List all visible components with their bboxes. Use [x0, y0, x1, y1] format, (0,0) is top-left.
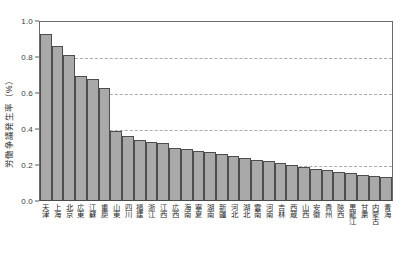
x-axis-label: 山東 — [110, 203, 122, 217]
x-axis-label-text: 内蒙古 — [372, 203, 379, 224]
bar — [169, 148, 181, 200]
bar — [193, 151, 205, 201]
x-axis-label: 寧夏 — [192, 203, 204, 217]
y-tick-label: 0.4 — [21, 125, 33, 134]
x-axis-label: 山西 — [299, 203, 311, 217]
x-axis-label-text: 江蘇 — [88, 203, 95, 217]
x-axis-label-text: 黒龍江 — [348, 203, 355, 224]
x-axis-label: 陝西 — [334, 203, 346, 217]
bar — [99, 88, 111, 200]
bar — [228, 156, 240, 200]
y-axis-title: 労働争議発生率（%） — [2, 32, 16, 212]
x-axis-label-text: 貴州 — [324, 203, 331, 217]
x-axis-label: 甘粛 — [358, 203, 370, 217]
x-axis-label: 貴州 — [322, 203, 334, 217]
x-axis-label-text: 北京 — [65, 203, 72, 217]
x-axis-label: 四川 — [122, 203, 134, 217]
x-axis-label-text: 青海 — [383, 203, 390, 217]
x-axis-label: 福建 — [133, 203, 145, 217]
bar — [286, 165, 298, 200]
x-axis-label: 北京 — [63, 203, 75, 217]
x-axis-label-text: 四川 — [124, 203, 131, 217]
x-axis-label: 黒龍江 — [346, 203, 358, 224]
x-axis-label-text: 天津 — [41, 203, 48, 217]
x-axis-label: 天津 — [39, 203, 51, 217]
x-axis-label: 海南 — [181, 203, 193, 217]
bar — [357, 175, 369, 200]
bar — [40, 34, 52, 200]
x-axis-label: 江西 — [157, 203, 169, 217]
x-axis-label-text: 甘粛 — [360, 203, 367, 217]
bar — [157, 143, 169, 200]
bar — [298, 167, 310, 200]
y-tick-label: 0.6 — [21, 89, 33, 98]
bar — [204, 152, 216, 200]
bar — [146, 142, 158, 201]
x-axis-label-text: 湖南 — [206, 203, 213, 217]
x-axis-label-text: 雲南 — [254, 203, 261, 217]
bar — [239, 158, 251, 200]
x-axis-label-text: 陝西 — [336, 203, 343, 217]
x-axis-label-text: 広東 — [77, 203, 84, 217]
bar — [87, 79, 99, 201]
x-axis-label-text: 河南 — [265, 203, 272, 217]
bar — [63, 55, 75, 200]
x-axis-label: 広東 — [74, 203, 86, 217]
bar — [110, 131, 122, 200]
bar — [134, 140, 146, 200]
y-tick-label: 1.0 — [21, 17, 33, 26]
x-axis-category-labels: 天津上海北京広東江蘇重慶山東四川福建浙江江西広西海南寧夏湖南新疆河北湖北雲南河南… — [39, 203, 393, 263]
x-axis-label-text: 安徽 — [313, 203, 320, 217]
bar — [181, 149, 193, 200]
y-tick-label: 0.2 — [21, 161, 33, 170]
x-axis-label-text: 山西 — [301, 203, 308, 217]
x-axis-label: 湖北 — [240, 203, 252, 217]
bar — [75, 76, 87, 200]
bar — [345, 173, 357, 200]
bar — [251, 160, 263, 201]
x-axis-label: 河南 — [263, 203, 275, 217]
x-axis-label-text: 江西 — [159, 203, 166, 217]
x-axis-label-text: 河北 — [230, 203, 237, 217]
x-axis-label: 西蔵 — [287, 203, 299, 217]
x-axis-label: 重慶 — [98, 203, 110, 217]
x-axis-label: 河北 — [228, 203, 240, 217]
bar-series — [40, 22, 392, 200]
bar — [322, 170, 334, 200]
bar — [380, 177, 392, 200]
x-axis-label-text: 吉林 — [277, 203, 284, 217]
x-axis-label: 広西 — [169, 203, 181, 217]
x-axis-label-text: 重慶 — [100, 203, 107, 217]
x-axis-label: 安徽 — [310, 203, 322, 217]
x-axis-label-text: 寧夏 — [195, 203, 202, 217]
bar — [333, 172, 345, 200]
x-axis-label-text: 山東 — [112, 203, 119, 217]
bar — [52, 46, 64, 200]
x-axis-label: 吉林 — [275, 203, 287, 217]
x-axis-label: 上海 — [51, 203, 63, 217]
x-axis-label: 内蒙古 — [369, 203, 381, 224]
bar — [263, 161, 275, 200]
x-axis-label-text: 福建 — [136, 203, 143, 217]
x-axis-label: 江蘇 — [86, 203, 98, 217]
bar — [122, 136, 134, 200]
x-axis-label: 新疆 — [216, 203, 228, 217]
x-axis-label: 雲南 — [251, 203, 263, 217]
bar — [275, 163, 287, 200]
bar — [369, 176, 381, 200]
labor-dispute-rate-bar-chart: 1.00.80.60.40.20.0 労働争議発生率（%） 天津上海北京広東江蘇… — [0, 0, 408, 263]
x-axis-label: 青海 — [381, 203, 393, 217]
x-axis-label: 浙江 — [145, 203, 157, 217]
x-axis-label-text: 西蔵 — [289, 203, 296, 217]
x-axis-label: 湖南 — [204, 203, 216, 217]
x-axis-label-text: 湖北 — [242, 203, 249, 217]
y-tick-label: 0.8 — [21, 53, 33, 62]
x-axis-label-text: 浙江 — [147, 203, 154, 217]
bar — [216, 154, 228, 200]
x-axis-label-text: 上海 — [53, 203, 60, 217]
plot-area — [39, 21, 393, 201]
x-axis-label-text: 広西 — [171, 203, 178, 217]
x-axis-label-text: 新疆 — [218, 203, 225, 217]
y-tick-label: 0.0 — [21, 197, 33, 206]
bar — [310, 169, 322, 201]
